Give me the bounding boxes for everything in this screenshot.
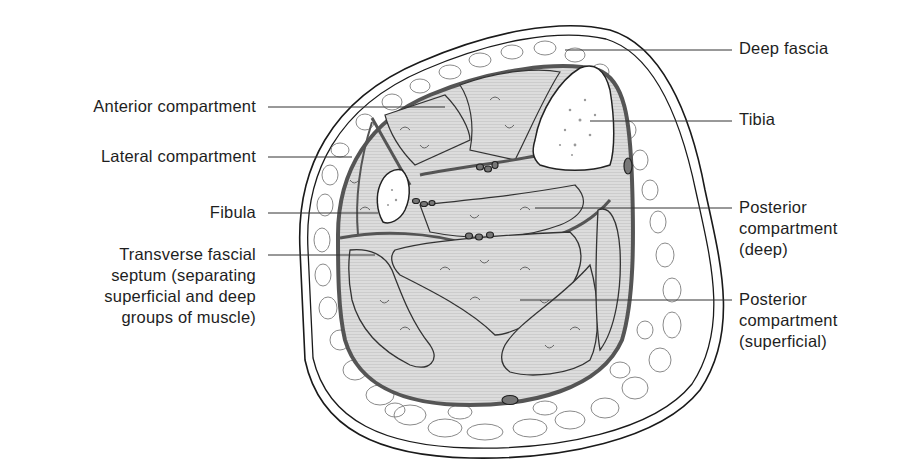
label-lateral-compartment: Lateral compartment bbox=[101, 146, 256, 167]
label-anterior-compartment: Anterior compartment bbox=[93, 96, 256, 117]
label-posterior-compartment-superficial: Posterior compartment (superficial) bbox=[739, 289, 838, 352]
label-posterior-compartment-deep: Posterior compartment (deep) bbox=[739, 197, 838, 260]
label-deep-fascia: Deep fascia bbox=[739, 38, 828, 59]
label-fibula: Fibula bbox=[210, 202, 256, 223]
label-tibia: Tibia bbox=[739, 109, 775, 130]
label-transverse-fascial-septum: Transverse fascial septum (separating su… bbox=[104, 244, 256, 328]
